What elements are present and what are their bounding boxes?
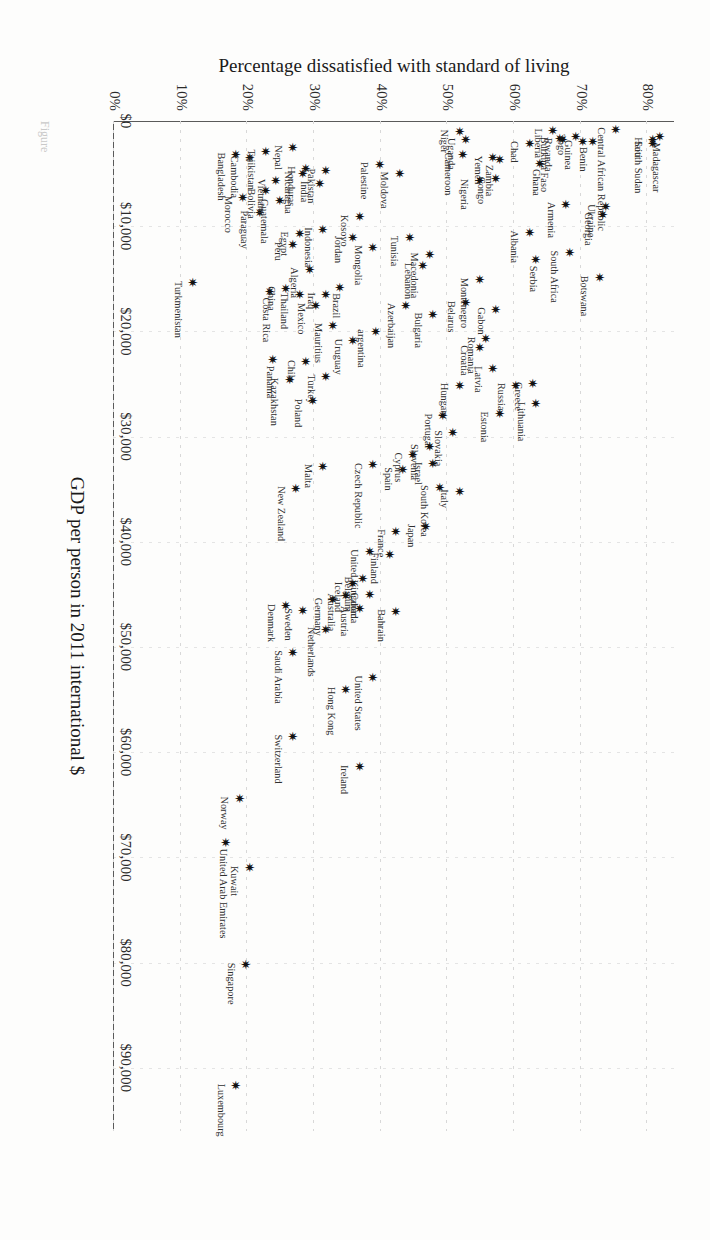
star-marker-icon (230, 1080, 239, 1089)
data-point-label: Armenia (546, 202, 557, 238)
star-marker-icon (403, 232, 412, 241)
star-marker-icon (293, 228, 302, 237)
data-point-label: Poland (293, 399, 304, 428)
data-point-label: Cambodia (229, 156, 240, 198)
star-marker-icon (453, 126, 462, 135)
star-marker-icon (333, 282, 342, 291)
x-tick-label: $20,000 (117, 307, 134, 356)
data-point-label: Tunisia (389, 236, 400, 267)
data-point-label: Niger (439, 129, 450, 152)
data-point-label: Malta (303, 464, 314, 488)
data-point-label: Jordan (333, 236, 344, 263)
data-point-label: Benin (578, 147, 589, 172)
x-tick-label: $80,000 (117, 938, 134, 987)
star-marker-icon (286, 142, 295, 151)
gridline-horizontal (446, 121, 447, 1131)
star-marker-icon (523, 227, 532, 236)
star-marker-icon (493, 154, 502, 163)
data-point-label: Switzerland (273, 734, 284, 783)
star-marker-icon (353, 603, 362, 612)
data-point-label: Mexico (296, 303, 307, 334)
data-point-label: Czech Republic (353, 463, 364, 528)
star-marker-icon (610, 124, 619, 133)
data-point-label: Nigeria (459, 179, 470, 210)
data-point-label: Mauritius (313, 323, 324, 363)
y-tick-label: 0% (106, 91, 123, 111)
scatter-plot-area: HaitiMadagascarSouth SudanCentral Africa… (114, 121, 674, 1131)
y-axis-title: Percentage dissatisfied with standard of… (114, 55, 674, 77)
star-marker-icon (353, 761, 362, 770)
star-marker-icon (420, 521, 429, 530)
star-marker-icon (426, 309, 435, 318)
star-marker-icon (646, 138, 655, 147)
star-marker-icon (320, 624, 329, 633)
data-point-label: Lebanon (403, 263, 414, 299)
star-marker-icon (433, 482, 442, 491)
gridline-horizontal (513, 121, 514, 1131)
x-tick-label: $50,000 (117, 623, 134, 672)
star-marker-icon (393, 168, 402, 177)
star-marker-icon (563, 247, 572, 256)
star-marker-icon (426, 458, 435, 467)
data-point-label: Israel (413, 462, 424, 485)
data-point-label: South Sudan (633, 141, 644, 193)
star-marker-icon (266, 354, 275, 363)
star-marker-icon (373, 159, 382, 168)
data-point-label: Ghana (531, 169, 542, 196)
gridline-vertical (114, 1068, 674, 1069)
data-point-label: Indonesia (303, 227, 314, 267)
data-point-label: Uruguay (333, 339, 344, 375)
data-point-label: South Africa (549, 250, 560, 302)
star-marker-icon (473, 175, 482, 184)
star-marker-icon (490, 304, 499, 313)
star-marker-icon (353, 211, 362, 220)
star-marker-icon (220, 837, 229, 846)
data-point-label: United Arab Emirates (218, 849, 229, 939)
star-marker-icon (446, 427, 455, 436)
star-marker-icon (346, 232, 355, 241)
star-marker-icon (363, 546, 372, 555)
data-point-label: Finland (369, 552, 380, 583)
star-marker-icon (286, 647, 295, 656)
x-tick-label: $10,000 (117, 202, 134, 251)
data-point-label: Albania (509, 230, 520, 263)
y-tick-label: 40% (372, 84, 389, 111)
data-point-label: United States (353, 676, 364, 731)
data-point-label: Egypt (279, 232, 290, 257)
data-point-label: New Zealand (276, 486, 287, 541)
star-marker-icon (416, 260, 425, 269)
star-marker-icon (453, 486, 462, 495)
data-point-label: Sweden (283, 608, 294, 641)
star-marker-icon (320, 165, 329, 174)
y-tick-label: 50% (439, 84, 456, 111)
star-marker-icon (233, 793, 242, 802)
figure-caption: Figure (37, 121, 52, 1131)
data-point-label: Croatia (459, 345, 470, 375)
data-point-label: Kuwait (229, 866, 240, 896)
data-point-label: Thailand (279, 293, 290, 330)
data-point-label: Bangladesh (216, 153, 227, 201)
star-marker-icon (366, 242, 375, 251)
data-point-label: Hong Kong (326, 687, 337, 735)
data-point-label: Chad (509, 141, 520, 163)
data-point-label: Luxembourg (216, 1084, 227, 1137)
star-marker-icon (530, 398, 539, 407)
x-tick-label: $90,000 (117, 1044, 134, 1093)
data-point-label: Denmark (266, 604, 277, 642)
star-marker-icon (280, 600, 289, 609)
data-point-label: Netherlands (306, 627, 317, 677)
data-point-label: Azerbaijan (386, 303, 397, 348)
star-marker-icon (593, 272, 602, 281)
data-point-label: Latvia (473, 366, 484, 392)
rotated-figure-stage: HaitiMadagascarSouth SudanCentral Africa… (10, 25, 700, 1215)
data-point-label: Honduras (286, 166, 297, 206)
star-marker-icon (326, 320, 335, 329)
gridline-vertical (114, 752, 674, 753)
data-point-label: Lithuania (516, 402, 527, 442)
star-marker-icon (530, 254, 539, 263)
star-marker-icon (510, 380, 519, 389)
star-marker-icon (423, 249, 432, 258)
figure-page: HaitiMadagascarSouth SudanCentral Africa… (0, 0, 710, 1240)
data-point-label: Ireland (339, 765, 350, 794)
star-marker-icon (320, 289, 329, 298)
